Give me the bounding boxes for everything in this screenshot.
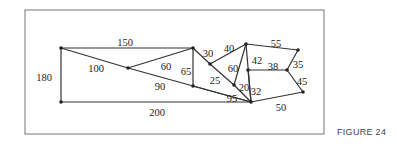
edge-weight-label: 90 [155,81,166,92]
edge-weight-label: 55 [271,38,282,49]
edge-weight-label: 95 [227,93,238,104]
edge-weight-label: 40 [224,43,235,54]
edge-weight-label: 35 [293,59,304,70]
graph-node-F [208,62,212,66]
graph-node-G [244,42,248,46]
edge-weight-label: 50 [276,102,287,113]
graph-node-A [59,46,63,50]
edge-weight-label: 65 [181,66,192,77]
graph-node-E [59,100,63,104]
graph-node-J [249,100,253,104]
edge-weight-label: 100 [88,63,104,74]
graph-node-K [296,48,300,52]
figure-frame [25,10,324,134]
graph-node-L [285,68,289,72]
edge-weight-label: 180 [36,72,52,83]
edge-weight-label: 200 [149,107,165,118]
edge-weight-label: 150 [117,37,133,48]
edge-weight-label: 38 [268,61,279,72]
graph-node-I [246,68,250,72]
edge-weight-label: 42 [252,55,263,66]
edge-weight-label: 45 [297,76,308,87]
edge-weight-label: 32 [251,86,262,97]
graph-node-M [301,90,305,94]
edge-weight-label: 60 [161,61,172,72]
edge-weight-label: 25 [210,75,221,86]
edge-weight-label: 60 [228,63,239,74]
figure-caption: FIGURE 24 [337,127,386,137]
edge-weight-labels: 1501801006090653095200402560422032553835… [36,37,307,118]
edge-weight-label: 20 [239,82,250,93]
graph-node-B [126,66,130,70]
graph-node-D [191,84,195,88]
graph-figure: 1501801006090653095200402560422032553835… [0,0,397,146]
graph-node-C [191,46,195,50]
graph-node-H [232,83,236,87]
edge-weight-label: 30 [203,48,214,59]
